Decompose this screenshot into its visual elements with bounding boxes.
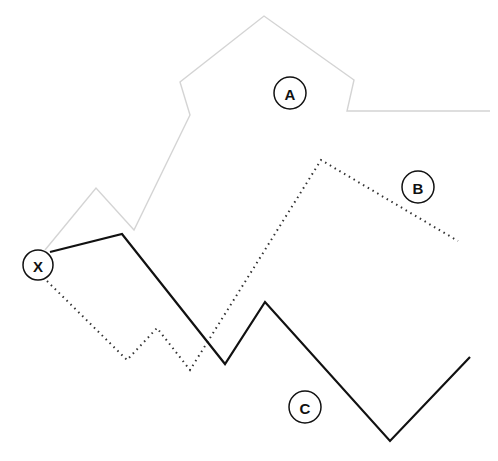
path-a-line <box>45 16 490 250</box>
origin-label: X <box>33 258 43 275</box>
label-c: C <box>289 391 321 423</box>
origin-node-x: X <box>23 250 53 280</box>
path-c-line <box>50 234 470 441</box>
label-a-text: A <box>285 86 296 103</box>
path-diagram: X A B C <box>0 0 498 461</box>
label-a: A <box>274 77 306 109</box>
label-b: B <box>402 171 434 203</box>
label-b-text: B <box>413 180 424 197</box>
path-b-line <box>47 160 458 370</box>
label-c-text: C <box>300 400 311 417</box>
